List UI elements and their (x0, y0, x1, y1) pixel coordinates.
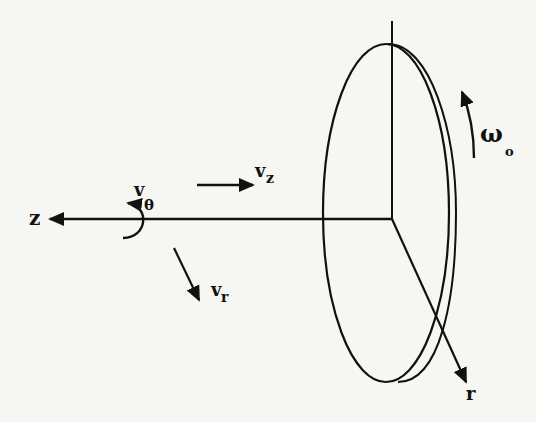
v-r-subscript: r (221, 289, 229, 305)
v-z-label: v (254, 160, 266, 181)
rotating-disk-diagram: z r v θ v z v r ω o (0, 0, 536, 422)
v-theta-arrow (123, 203, 143, 238)
omega-label: ω (480, 119, 503, 148)
disk (323, 44, 456, 382)
omega-arrow (462, 92, 474, 158)
r-axis-label: r (466, 383, 476, 404)
v-z-subscript: z (266, 170, 274, 186)
v-r-arrow (174, 248, 199, 300)
omega-subscript: o (505, 144, 514, 159)
z-axis-label: z (29, 206, 40, 230)
v-theta-subscript: θ (144, 196, 154, 214)
diagram-svg: z r v θ v z v r ω o (0, 0, 536, 422)
